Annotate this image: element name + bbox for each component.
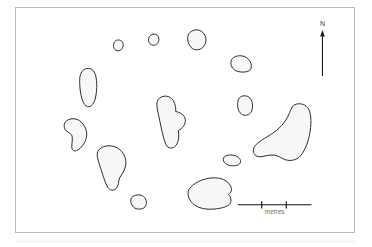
map-frame: N metres [15, 7, 355, 233]
stone-circle-plan-svg: N metres [16, 8, 356, 234]
site-plan-figure: N metres [0, 0, 372, 247]
north-arrow-head [320, 30, 325, 37]
stone-06 [238, 96, 253, 116]
scale-bar-label: metres [265, 208, 285, 215]
baseline-rule [15, 241, 355, 242]
stones-group [64, 30, 311, 209]
stone-04 [231, 56, 251, 72]
stone-11 [223, 155, 240, 166]
stone-13 [131, 195, 147, 209]
north-arrow-label: N [320, 20, 325, 27]
stone-01 [113, 40, 123, 51]
north-arrow: N [320, 20, 325, 76]
stone-05 [80, 68, 97, 106]
stone-07 [157, 96, 186, 148]
stone-08 [253, 104, 311, 161]
stone-02 [148, 34, 158, 45]
scale-bar: metres [238, 201, 312, 215]
stone-12 [188, 178, 231, 209]
stone-10 [97, 146, 126, 190]
stone-09 [64, 119, 87, 151]
stone-03 [188, 30, 206, 50]
